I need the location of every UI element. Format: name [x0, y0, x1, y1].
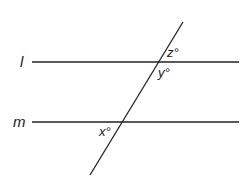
angle-x-label: x° [98, 124, 111, 139]
angle-z-label: z° [166, 45, 179, 60]
label-l: l [20, 53, 24, 70]
label-m: m [13, 113, 26, 130]
angle-y-label: y° [157, 65, 170, 80]
parallel-lines-diagram: l m z° y° x° [0, 0, 250, 192]
